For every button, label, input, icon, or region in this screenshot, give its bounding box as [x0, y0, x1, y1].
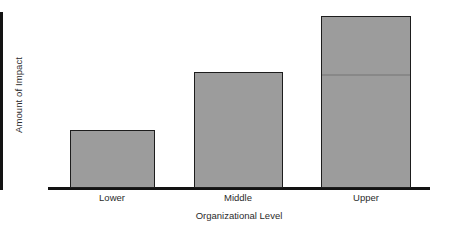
bar-lower — [70, 130, 155, 188]
plot-area — [48, 12, 430, 188]
category-label-middle: Middle — [178, 192, 298, 203]
y-axis-title: Amount of Impact — [10, 40, 28, 150]
bar-upper — [321, 16, 411, 188]
category-label-upper: Upper — [306, 192, 426, 203]
category-label-lower: Lower — [52, 192, 172, 203]
bar-middle — [194, 72, 283, 188]
scan-artifact-line — [322, 74, 410, 76]
y-axis-line — [0, 12, 3, 190]
bar-chart-figure: Amount of Impact Lower Middle Upper Orga… — [0, 0, 451, 233]
x-axis-title: Organizational Level — [48, 210, 430, 221]
